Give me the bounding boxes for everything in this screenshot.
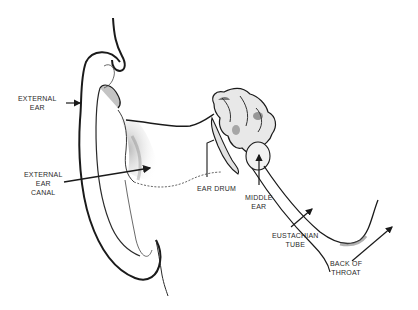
scalp-line xyxy=(112,18,125,71)
eustachian-tube-arrow xyxy=(291,209,312,227)
label-external-ear: EXTERNAL EAR xyxy=(18,94,57,112)
ear-anatomy-diagram: EXTERNAL EAR EXTERNAL EAR CANAL EAR DRUM… xyxy=(0,0,418,310)
label-ear-drum: EAR DRUM xyxy=(197,184,236,193)
eustachian-tube-lower xyxy=(252,168,330,272)
ear-drum-leader xyxy=(207,140,214,177)
label-external-ear-canal: EXTERNAL EAR CANAL xyxy=(24,170,63,197)
label-eustachian-tube: EUSTACHIAN TUBE xyxy=(272,231,319,249)
label-middle-ear: MIDDLE EAR xyxy=(245,193,273,211)
label-back-of-throat: BACK OF THROAT xyxy=(330,259,362,277)
